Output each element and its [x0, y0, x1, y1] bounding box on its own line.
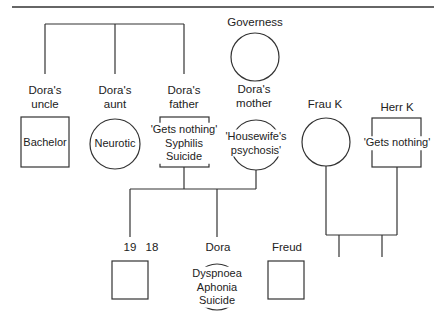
governess-label: Governess: [227, 15, 283, 29]
uncle-label-line1: Dora's: [29, 83, 62, 97]
frau-k-circle: [302, 118, 350, 166]
parents-connector: [130, 167, 256, 237]
father-note: 'Gets nothing' Syphilis Suicide: [150, 123, 219, 164]
uncle-label: Dora's uncle: [29, 83, 62, 111]
brother-age-18: 18: [146, 240, 159, 254]
dora-note-line1: Dyspnoea: [192, 267, 242, 281]
aunt-note: Neurotic: [95, 137, 136, 151]
mother-note-line2: psychosis': [225, 143, 286, 157]
uncle-label-line2: uncle: [29, 97, 62, 111]
father-label-line1: Dora's: [168, 83, 201, 97]
dora-label: Dora: [206, 240, 231, 254]
father-label: Dora's father: [168, 83, 201, 111]
dora-note-line3: Suicide: [192, 294, 242, 308]
uncle-note: Bachelor: [23, 136, 66, 150]
father-label-line2: father: [168, 97, 201, 111]
brother-square: [112, 261, 148, 299]
governess-circle: [231, 33, 279, 81]
mother-note-line1: 'Housewife's: [225, 130, 286, 144]
mother-label-line2: mother: [236, 96, 272, 110]
mother-note: 'Housewife's psychosis': [224, 130, 287, 157]
aunt-label-line2: aunt: [99, 97, 132, 111]
father-note-line1: 'Gets nothing': [151, 123, 218, 137]
dora-note-line2: Aphonia: [192, 280, 242, 294]
herr-k-note: 'Gets nothing': [363, 136, 432, 150]
aunt-label-line1: Dora's: [99, 83, 132, 97]
mother-label-line1: Dora's: [236, 82, 272, 96]
brother-age-19: 19: [124, 240, 137, 254]
herr-k-label: Herr K: [380, 100, 413, 114]
sibling-connector: [45, 24, 184, 74]
aunt-label: Dora's aunt: [99, 83, 132, 111]
k-couple-connector: [326, 166, 397, 257]
dora-note: Dyspnoea Aphonia Suicide: [191, 267, 243, 308]
freud-square: [268, 261, 304, 299]
freud-label: Freud: [272, 240, 302, 254]
frau-k-label: Frau K: [308, 97, 343, 111]
mother-label: Dora's mother: [236, 82, 272, 110]
father-note-line3: Suicide: [151, 150, 218, 164]
father-note-line2: Syphilis: [151, 136, 218, 150]
